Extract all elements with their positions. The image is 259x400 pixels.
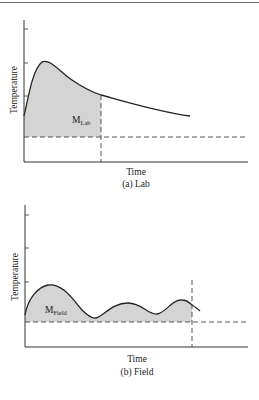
lab-y-label: Temperature <box>9 66 19 114</box>
panel-field: Temperature MField Time (b) Field <box>10 205 248 378</box>
field-caption: (b) Field <box>121 367 154 378</box>
field-shaded-area <box>25 285 192 322</box>
field-x-label: Time <box>127 354 147 364</box>
lab-caption: (a) Lab <box>122 179 150 190</box>
field-y-label: Temperature <box>10 253 20 301</box>
diagram-canvas: Temperature MLab Time (a) Lab Temperatur… <box>0 0 259 400</box>
lab-x-label: Time <box>126 167 146 177</box>
panel-lab: Temperature MLab Time (a) Lab <box>9 20 248 190</box>
